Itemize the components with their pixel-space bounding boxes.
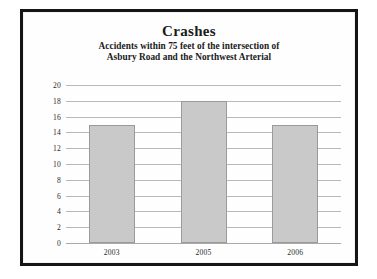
x-axis-line (66, 243, 341, 244)
y-axis-tick-label: 2 (57, 223, 61, 232)
y-axis-tick-label: 18 (53, 96, 61, 105)
chart-title: Crashes (24, 23, 354, 39)
y-axis-tick-label: 14 (53, 128, 61, 137)
chart-frame-inner: Crashes Accidents within 75 feet of the … (23, 12, 355, 263)
bar-2006 (272, 125, 318, 244)
y-axis-tick-label: 20 (53, 81, 61, 90)
y-axis-tick-label: 6 (57, 191, 61, 200)
chart-subtitle-line-2: Asbury Road and the Northwest Arterial (24, 52, 354, 63)
y-axis-tick-label: 10 (53, 160, 61, 169)
bar-2005 (181, 101, 227, 243)
x-axis-tick-label-2005: 2005 (196, 248, 212, 257)
y-axis-tick-label: 12 (53, 144, 61, 153)
chart-frame: Crashes Accidents within 75 feet of the … (20, 9, 358, 266)
y-axis-tick-label: 0 (57, 239, 61, 248)
chart-subtitle: Accidents within 75 feet of the intersec… (24, 41, 354, 62)
scanned-page: Crashes Accidents within 75 feet of the … (0, 0, 377, 279)
x-axis-tick-label-2003: 2003 (104, 248, 120, 257)
title-block: Crashes Accidents within 75 feet of the … (24, 23, 354, 62)
y-axis-tick-label: 8 (57, 175, 61, 184)
y-axis-tick-label: 4 (57, 207, 61, 216)
gridline (66, 85, 341, 86)
chart-subtitle-line-1: Accidents within 75 feet of the intersec… (24, 41, 354, 52)
plot-area: 02468101214161820200320052006 (66, 85, 341, 243)
bar-2003 (89, 125, 135, 244)
y-axis-tick-label: 16 (53, 112, 61, 121)
x-axis-tick-label-2006: 2006 (287, 248, 303, 257)
